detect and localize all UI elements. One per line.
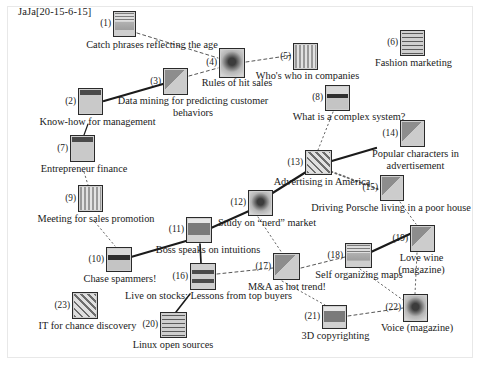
book-cover-thumbnail-19[interactable] xyxy=(410,225,435,252)
node-label-9: Meeting for sales promotion xyxy=(26,213,166,225)
node-index-14: (14) xyxy=(374,128,398,138)
node-index-18: (18) xyxy=(319,250,343,260)
thumbnail-art-20 xyxy=(162,314,185,336)
node-index-9: (9) xyxy=(52,193,76,203)
thumbnail-art-12 xyxy=(250,192,271,214)
thumbnail-art-23 xyxy=(74,294,96,317)
node-index-8: (8) xyxy=(299,92,323,102)
node-index-11: (11) xyxy=(160,224,184,234)
node-index-17: (17) xyxy=(247,261,271,271)
book-cover-thumbnail-23[interactable] xyxy=(72,292,98,319)
thumbnail-art-17 xyxy=(275,255,298,278)
thumbnail-art-19 xyxy=(412,227,433,250)
thumbnail-art-4 xyxy=(221,50,243,76)
node-label-14: Popular characters in advertisement xyxy=(358,148,473,171)
node-index-4: (4) xyxy=(193,57,217,67)
node-label-22: Voice (magazine) xyxy=(368,322,466,334)
node-label-5: Who's who in companies xyxy=(245,70,370,82)
node-index-7: (7) xyxy=(44,143,68,153)
node-label-17: M&A as hot trend! xyxy=(237,281,337,293)
node-index-16: (16) xyxy=(164,271,188,281)
book-cover-thumbnail-9[interactable] xyxy=(78,185,103,212)
thumbnail-art-2 xyxy=(80,90,101,113)
thumbnail-art-18 xyxy=(347,245,370,266)
thumbnail-art-9 xyxy=(80,187,101,210)
book-cover-thumbnail-6[interactable] xyxy=(400,30,425,56)
thumbnail-art-22 xyxy=(405,296,426,320)
book-cover-thumbnail-17[interactable] xyxy=(273,253,300,280)
thumbnail-art-13 xyxy=(307,152,330,173)
node-label-20: Linux open sources xyxy=(123,339,223,351)
book-cover-thumbnail-10[interactable] xyxy=(106,247,132,272)
node-index-23: (23) xyxy=(46,300,70,310)
book-cover-thumbnail-18[interactable] xyxy=(345,243,372,268)
book-cover-thumbnail-13[interactable] xyxy=(305,150,332,175)
node-index-19: (19) xyxy=(384,233,408,243)
node-index-10: (10) xyxy=(80,254,104,264)
figure-title: JaJa[20-15-6-15] xyxy=(18,6,91,17)
book-cover-thumbnail-22[interactable] xyxy=(403,294,428,322)
thumbnail-art-21 xyxy=(324,307,345,327)
node-index-1: (1) xyxy=(87,18,111,28)
node-label-11: Boss speaks on intuitions xyxy=(143,244,273,256)
node-index-12: (12) xyxy=(222,197,246,207)
node-index-2: (2) xyxy=(52,96,76,106)
thumbnail-art-6 xyxy=(402,32,423,54)
node-index-5: (5) xyxy=(267,51,291,61)
book-cover-thumbnail-4[interactable] xyxy=(219,48,245,78)
node-label-10: Chase spammers! xyxy=(70,273,170,285)
node-label-8: What is a complex system? xyxy=(279,111,419,123)
thumbnail-art-7 xyxy=(72,137,93,160)
book-cover-thumbnail-20[interactable] xyxy=(160,312,187,338)
book-cover-thumbnail-2[interactable] xyxy=(78,88,103,115)
thumbnail-art-11 xyxy=(188,219,210,241)
node-index-15: (15) xyxy=(354,182,378,192)
book-cover-thumbnail-8[interactable] xyxy=(325,85,350,111)
thumbnail-art-5 xyxy=(295,45,316,68)
thumbnail-art-15 xyxy=(382,177,402,199)
node-label-23: IT for chance discovery xyxy=(25,320,150,332)
thumbnail-art-1 xyxy=(115,13,134,35)
book-cover-thumbnail-1[interactable] xyxy=(113,11,136,37)
node-label-12: Study on “nerd” market xyxy=(208,217,326,229)
book-cover-thumbnail-7[interactable] xyxy=(70,135,95,162)
thumbnail-art-16 xyxy=(192,265,214,288)
book-cover-thumbnail-15[interactable] xyxy=(380,175,404,201)
node-index-6: (6) xyxy=(374,37,398,47)
node-label-15: Driving Porsche living in a poor house xyxy=(301,202,480,214)
thumbnail-art-10 xyxy=(108,249,130,270)
edge-3-4 xyxy=(189,68,218,76)
node-index-13: (13) xyxy=(279,157,303,167)
edge-9-10 xyxy=(95,222,115,246)
node-label-3: Data mining for predicting customer beha… xyxy=(113,95,273,118)
thumbnail-art-8 xyxy=(327,87,348,109)
book-cover-thumbnail-14[interactable] xyxy=(400,120,425,147)
book-cover-thumbnail-16[interactable] xyxy=(190,263,216,290)
thumbnail-art-14 xyxy=(402,122,423,145)
book-cover-thumbnail-21[interactable] xyxy=(322,305,347,329)
book-cover-thumbnail-5[interactable] xyxy=(293,43,318,70)
node-label-6: Fashion marketing xyxy=(361,57,466,69)
figure-canvas: JaJa[20-15-6-15] (1)Catch phrases reflec… xyxy=(0,0,480,366)
book-cover-thumbnail-12[interactable] xyxy=(248,190,273,216)
node-index-22: (22) xyxy=(377,302,401,312)
node-label-7: Entrepreneur finance xyxy=(24,163,144,175)
node-index-3: (3) xyxy=(137,76,161,86)
node-index-21: (21) xyxy=(296,311,320,321)
node-label-19: Love wine (magazine) xyxy=(384,252,459,275)
